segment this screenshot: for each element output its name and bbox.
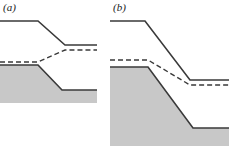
- panel-a-graphic: [0, 0, 100, 146]
- dashed-level-line: [0, 50, 97, 62]
- gray-filled-region: [0, 65, 97, 103]
- figure-root: (a) (b): [0, 0, 229, 146]
- panel-b: (b): [110, 0, 229, 146]
- panel-b-graphic: [110, 0, 229, 146]
- panel-a: (a): [0, 0, 100, 146]
- panel-b-label: (b): [113, 1, 126, 13]
- gray-filled-region: [110, 67, 229, 146]
- solid-surface-line: [0, 21, 97, 45]
- panel-a-label: (a): [3, 1, 16, 13]
